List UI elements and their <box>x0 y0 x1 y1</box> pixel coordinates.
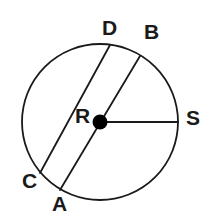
label-a: A <box>52 193 67 214</box>
label-d: D <box>102 17 117 38</box>
label-s: S <box>186 107 200 128</box>
label-b: B <box>144 21 159 42</box>
label-r: R <box>75 105 90 126</box>
center-point-r <box>93 115 108 130</box>
label-c: C <box>22 170 37 191</box>
circle-diagram: DBRSCA <box>0 0 212 221</box>
